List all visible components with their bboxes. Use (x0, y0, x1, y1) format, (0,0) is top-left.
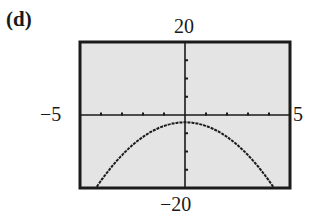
graph-window (0, 0, 311, 224)
